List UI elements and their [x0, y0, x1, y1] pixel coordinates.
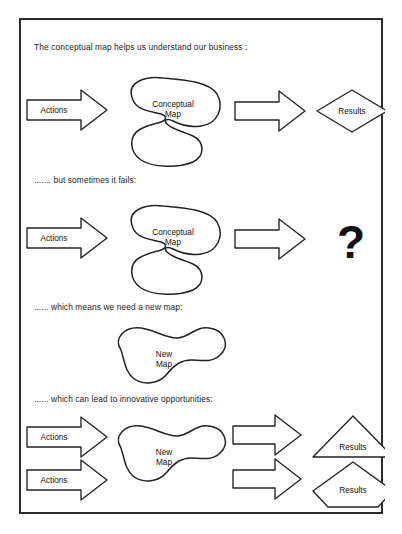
section-1-map-label-line1: Conceptual: [152, 100, 194, 109]
section-1-actions-label: Actions: [41, 106, 68, 115]
section-4-results-pentagon: [313, 462, 385, 507]
section-2-actions-label: Actions: [41, 234, 68, 243]
diagram-frame: The conceptual map helps us understand o…: [19, 18, 383, 514]
section-3-map-label-line1: New: [156, 350, 172, 359]
section-1-flow-arrow: [235, 91, 305, 131]
section-4-caption: ...... which can lead to innovative oppo…: [34, 394, 213, 404]
section-4-results-label-bottom: Results: [339, 486, 366, 495]
section-4-flow-arrow-top: [233, 415, 301, 455]
section-2-map-label-line2: Map: [165, 238, 181, 247]
section-2-conceptual-map-blob: [131, 206, 220, 295]
section-1-map-label-line2: Map: [165, 110, 181, 119]
section-2-question-mark: ?: [337, 216, 365, 268]
section-1-conceptual-map-blob: [131, 78, 220, 167]
section-3-map-label-line2: Map: [156, 360, 172, 369]
section-4-actions-label-top: Actions: [41, 433, 68, 442]
section-4-flow-arrow-bottom: [233, 459, 301, 499]
section-4-map-label-line1: New: [156, 448, 172, 457]
diagram-canvas: Actions Conceptual Map Results Actions C…: [21, 20, 385, 516]
section-3-caption: ...... which means we need a new map:: [34, 302, 182, 312]
section-2-flow-arrow: [235, 219, 305, 259]
section-2-caption: ....... but sometimes it fails:: [34, 175, 136, 185]
section-4-results-label-top: Results: [339, 443, 366, 452]
section-4-actions-label-bottom: Actions: [41, 476, 68, 485]
section-4-map-label-line2: Map: [156, 458, 172, 467]
section-2-map-label-line1: Conceptual: [152, 228, 194, 237]
section-1-results-label: Results: [338, 107, 365, 116]
